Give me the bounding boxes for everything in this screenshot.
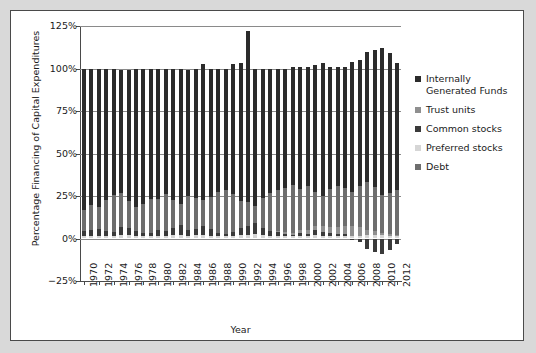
bar-segment bbox=[373, 187, 377, 231]
bar-segment bbox=[231, 236, 235, 239]
x-tick-mark bbox=[158, 281, 159, 285]
bar-segment bbox=[283, 69, 287, 189]
bar-segment bbox=[119, 70, 123, 192]
y-axis-title: Percentage Financing of Capital Expendit… bbox=[30, 19, 41, 259]
x-tick-mark bbox=[203, 281, 204, 285]
bar-column bbox=[97, 26, 101, 281]
x-tick-mark bbox=[218, 281, 219, 285]
bar-segment bbox=[156, 236, 160, 239]
bar-segment bbox=[119, 193, 123, 227]
bar-segment bbox=[82, 236, 86, 239]
bar-column bbox=[350, 26, 354, 281]
bar-segment bbox=[224, 236, 228, 238]
bars-group bbox=[80, 26, 401, 281]
bar-segment bbox=[358, 60, 362, 186]
x-tick-label: 1994 bbox=[267, 263, 278, 287]
y-tick-label: 25% bbox=[17, 190, 77, 201]
bar-segment bbox=[134, 236, 138, 239]
bar-segment bbox=[283, 234, 287, 237]
bar-segment bbox=[246, 226, 250, 235]
x-tick-label: 2006 bbox=[356, 263, 367, 287]
bar-segment bbox=[336, 186, 340, 227]
bar-segment bbox=[201, 64, 205, 200]
bar-segment bbox=[283, 188, 287, 232]
bar-column bbox=[291, 26, 295, 281]
bar-segment bbox=[306, 67, 310, 186]
bar-segment bbox=[171, 235, 175, 238]
bar-column bbox=[216, 26, 220, 281]
x-tick-label: 1998 bbox=[297, 263, 308, 287]
bar-segment bbox=[194, 69, 198, 199]
bar-segment bbox=[209, 197, 213, 229]
x-tick-label: 1996 bbox=[282, 263, 293, 287]
bar-segment bbox=[388, 234, 392, 236]
bar-segment bbox=[321, 232, 325, 236]
bar-segment bbox=[231, 232, 235, 236]
bar-column bbox=[224, 26, 228, 281]
x-tick-label: 2012 bbox=[401, 263, 412, 287]
y-tick-label: 75% bbox=[17, 105, 77, 116]
bar-column bbox=[373, 26, 377, 281]
bar-segment bbox=[141, 233, 145, 237]
bar-column bbox=[380, 26, 384, 281]
bar-segment bbox=[149, 233, 153, 236]
bar-segment bbox=[328, 227, 332, 233]
bar-segment bbox=[201, 226, 205, 235]
bar-segment bbox=[224, 69, 228, 190]
y-tick-label: 100% bbox=[17, 63, 77, 74]
bar-segment bbox=[246, 202, 250, 226]
bar-segment bbox=[156, 199, 160, 230]
x-tick-mark bbox=[114, 281, 115, 285]
bar-column bbox=[134, 26, 138, 281]
bar-segment bbox=[231, 64, 235, 194]
bar-segment bbox=[328, 189, 332, 226]
bar-column bbox=[82, 26, 86, 281]
bar-column bbox=[336, 26, 340, 281]
bar-segment bbox=[179, 204, 183, 224]
bar-segment bbox=[201, 235, 205, 238]
bar-segment bbox=[336, 227, 340, 234]
bar-segment bbox=[194, 198, 198, 229]
bar-column bbox=[186, 26, 190, 281]
bar-segment bbox=[350, 239, 354, 241]
legend-swatch-icon bbox=[415, 76, 421, 82]
bar-segment bbox=[216, 233, 220, 236]
bar-column bbox=[89, 26, 93, 281]
bar-segment bbox=[149, 236, 153, 238]
bar-column bbox=[365, 26, 369, 281]
x-tick-mark bbox=[367, 281, 368, 285]
bar-segment bbox=[313, 230, 317, 235]
plot-area: −25%0%25%50%75%100%125% bbox=[80, 26, 401, 244]
bar-segment bbox=[134, 231, 138, 236]
bar-segment bbox=[380, 195, 384, 232]
bar-segment bbox=[82, 210, 86, 230]
bar-segment bbox=[321, 236, 325, 239]
bar-segment bbox=[276, 69, 280, 191]
bar-segment bbox=[134, 69, 138, 208]
bar-segment bbox=[321, 196, 325, 227]
bar-segment bbox=[373, 239, 377, 253]
legend-item: Trust units bbox=[415, 104, 523, 116]
bar-segment bbox=[350, 62, 354, 192]
bar-column bbox=[119, 26, 123, 281]
legend-label: Internally Generated Funds bbox=[426, 73, 523, 97]
bar-column bbox=[388, 26, 392, 281]
bar-segment bbox=[358, 186, 362, 227]
bar-segment bbox=[89, 69, 93, 205]
bar-segment bbox=[298, 233, 302, 236]
bar-segment bbox=[201, 200, 205, 226]
bar-column bbox=[253, 26, 257, 281]
bar-segment bbox=[164, 194, 168, 231]
x-tick-label: 1992 bbox=[252, 263, 263, 287]
bar-segment bbox=[313, 235, 317, 238]
bar-segment bbox=[328, 67, 332, 189]
x-tick-label: 1984 bbox=[192, 263, 203, 287]
bar-segment bbox=[141, 236, 145, 238]
bar-segment bbox=[298, 236, 302, 239]
bar-column bbox=[313, 26, 317, 281]
x-tick-mark bbox=[188, 281, 189, 285]
x-tick-mark bbox=[143, 281, 144, 285]
bar-segment bbox=[194, 235, 198, 238]
x-axis-title: Year bbox=[80, 324, 401, 335]
bar-segment bbox=[291, 67, 295, 185]
